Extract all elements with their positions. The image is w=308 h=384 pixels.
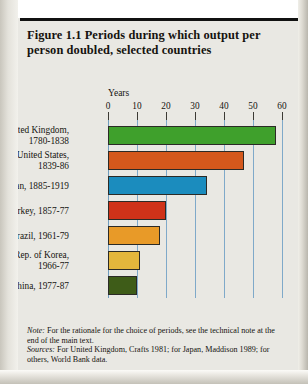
gridline-50 [253,120,254,298]
note-label: Note: [27,326,45,335]
bar-chart: 0102030405060United Kingdom, 1780-1838Un… [0,0,280,352]
page-left-edge [0,0,18,384]
x-tick-mark-20 [166,112,167,120]
x-tick-mark-50 [253,112,254,120]
bar-6 [108,276,137,295]
x-tick-mark-60 [282,112,283,120]
figure-footnote: Note: For the rationale for the choice o… [27,326,275,364]
gridline-20 [166,120,167,298]
bar-1 [108,151,244,170]
bar-3 [108,201,166,220]
x-tick-label-0: 0 [106,101,111,111]
bar-0 [108,126,276,145]
bar-4 [108,226,160,245]
x-tick-label-60: 60 [277,101,286,111]
sources-text: For United Kingdom, Crafts 1981; for Jap… [27,345,270,364]
gridline-60 [282,120,283,298]
x-tick-mark-30 [195,112,196,120]
footnote-sources: Sources: For United Kingdom, Crafts 1981… [27,345,275,364]
category-label-4: Brazil, 1961-79 [11,231,69,242]
sources-label: Sources: [27,345,55,354]
x-tick-mark-0 [108,112,109,120]
x-tick-label-40: 40 [219,101,228,111]
x-tick-label-20: 20 [161,101,170,111]
gridline-30 [195,120,196,298]
bar-2 [108,176,207,195]
category-label-1: United States, 1839-86 [17,150,69,171]
note-text: For the rationale for the choice of peri… [27,326,275,345]
bar-5 [108,251,140,270]
category-label-6: China, 1977-87 [11,281,69,292]
x-tick-label-10: 10 [132,101,141,111]
page-background: Figure 1.1 Periods during which output p… [0,0,308,384]
gridline-40 [224,120,225,298]
x-tick-label-50: 50 [248,101,257,111]
footnote-note: Note: For the rationale for the choice o… [27,326,275,345]
x-tick-mark-10 [137,112,138,120]
x-tick-mark-40 [224,112,225,120]
x-tick-label-30: 30 [190,101,199,111]
page-right-edge [298,0,308,384]
category-label-5: Rep. of Korea, 1966-77 [14,250,69,271]
page-bottom-edge [0,370,308,384]
